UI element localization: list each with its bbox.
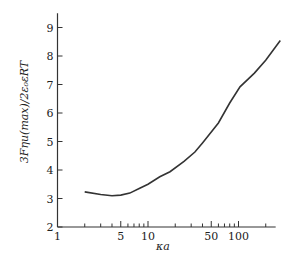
y-tick-label: 9 [47, 22, 54, 35]
y-tick-label: 3 [47, 193, 54, 206]
y-tick-label: 8 [47, 50, 54, 63]
x-tick-label: 50 [204, 230, 218, 243]
y-tick-label: 7 [47, 79, 54, 92]
y-tick-label: 5 [47, 136, 54, 149]
y-tick-label: 2 [47, 221, 54, 234]
x-tick-label: 10 [141, 230, 155, 243]
data-curve [85, 41, 281, 196]
y-tick-label: 6 [47, 107, 54, 120]
x-tick-label: 100 [228, 230, 249, 243]
x-tick-label: 5 [117, 230, 124, 243]
chart: 23456789 151050100 κa 3Fηu(max)/2ε₀εRT [0, 0, 295, 267]
y-axis-label: 3Fηu(max)/2ε₀εRT [18, 59, 31, 163]
y-axis: 23456789 [47, 13, 63, 234]
y-tick-label: 4 [47, 164, 54, 177]
x-tick-label: 1 [54, 230, 61, 243]
x-axis-label: κa [155, 240, 170, 253]
